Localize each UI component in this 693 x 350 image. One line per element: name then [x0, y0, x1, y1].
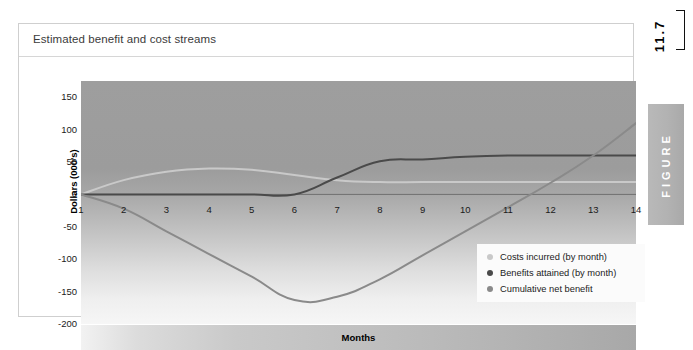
figure-frame: Estimated benefit and cost streams Dolla…	[18, 23, 634, 317]
figure-word-bar: FIGURE	[648, 104, 684, 225]
y-tick-label: 50	[47, 156, 77, 167]
legend-marker-icon	[487, 286, 493, 292]
y-tick-label: -100	[47, 253, 77, 264]
figure-number-text: 11.7	[652, 20, 667, 53]
chart-legend: Costs incurred (by month)Benefits attain…	[477, 244, 645, 302]
legend-label: Cumulative net benefit	[500, 284, 593, 294]
legend-item-cumulative: Cumulative net benefit	[483, 281, 639, 297]
chart-body: Dollars (000's) 150100500-50-100-150-200…	[19, 58, 633, 316]
y-tick-label: -150	[47, 286, 77, 297]
y-tick-label: 0	[47, 188, 77, 199]
y-tick-label: -50	[47, 221, 77, 232]
figure-number: 11.7	[648, 8, 670, 64]
legend-item-benefits: Benefits attained (by month)	[483, 265, 639, 281]
chart-title: Estimated benefit and cost streams	[33, 33, 216, 45]
x-axis-band: Months	[81, 325, 636, 350]
legend-marker-icon	[487, 254, 493, 260]
series-line	[81, 155, 636, 196]
legend-label: Costs incurred (by month)	[500, 252, 607, 262]
x-axis-title: Months	[81, 332, 636, 343]
chart-title-bar: Estimated benefit and cost streams	[19, 24, 633, 57]
legend-label: Benefits attained (by month)	[500, 268, 616, 278]
figure-word-label: FIGURE	[660, 132, 672, 198]
y-tick-label: 150	[47, 91, 77, 102]
legend-marker-icon	[487, 270, 493, 276]
y-axis-ticks: 150100500-50-100-150-200	[41, 58, 77, 316]
y-tick-label: -200	[47, 318, 77, 329]
y-tick-label: 100	[47, 124, 77, 135]
legend-item-costs: Costs incurred (by month)	[483, 249, 639, 265]
figure-bracket	[676, 10, 685, 50]
